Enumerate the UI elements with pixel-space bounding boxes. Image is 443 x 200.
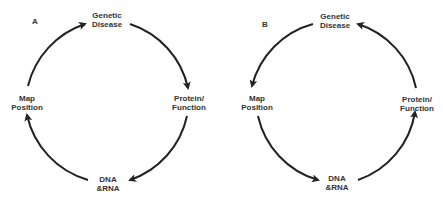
- cycle-arrows: [0, 0, 443, 200]
- diagram-canvas: A Genetic Disease Protein/ Function DNA …: [0, 0, 443, 200]
- node-label-line2: Function: [400, 104, 434, 113]
- panel-a-node-genetic-disease: Genetic Disease: [92, 11, 122, 29]
- node-label-line1: Genetic: [92, 11, 122, 20]
- node-label-line1: Genetic: [320, 12, 350, 21]
- node-label-line1: Protein/: [400, 95, 434, 104]
- panel-a-node-map-position: Map Position: [11, 94, 43, 112]
- panel-b-arrows: [252, 24, 416, 180]
- node-label-line2: &RNA: [325, 183, 348, 192]
- node-label-line2: &RNA: [96, 184, 119, 193]
- node-label-line1: DNA: [96, 175, 119, 184]
- node-label-line2: Function: [172, 103, 206, 112]
- node-label-line1: Map: [11, 94, 43, 103]
- arrow-protein-to-dna: [130, 116, 187, 180]
- panel-b-node-dna-rna: DNA &RNA: [325, 174, 348, 192]
- arrow-map-to-dna: [258, 116, 318, 180]
- arrow-dna-to-protein: [358, 112, 415, 180]
- panel-a-arrows: [27, 24, 188, 180]
- panel-a-node-dna-rna: DNA &RNA: [96, 175, 119, 193]
- panel-b-node-map-position: Map Position: [241, 94, 273, 112]
- panel-a-letter: A: [32, 17, 38, 26]
- node-label-line1: DNA: [325, 174, 348, 183]
- arrow-protein-to-disease: [358, 24, 416, 88]
- arrow-map-to-disease: [28, 24, 85, 86]
- arrow-disease-to-map: [252, 24, 313, 86]
- node-label-line1: Protein/: [172, 94, 206, 103]
- node-label-line2: Disease: [320, 21, 350, 30]
- panel-b-node-genetic-disease: Genetic Disease: [320, 12, 350, 30]
- node-label-line1: Map: [241, 94, 273, 103]
- node-label-line2: Position: [241, 103, 273, 112]
- panel-b-letter: B: [262, 20, 268, 29]
- panel-b-node-protein-function: Protein/ Function: [400, 95, 434, 113]
- node-label-line2: Disease: [92, 20, 122, 29]
- arrow-disease-to-protein: [130, 24, 188, 88]
- arrow-dna-to-map: [27, 115, 88, 180]
- node-label-line2: Position: [11, 103, 43, 112]
- panel-a-node-protein-function: Protein/ Function: [172, 94, 206, 112]
